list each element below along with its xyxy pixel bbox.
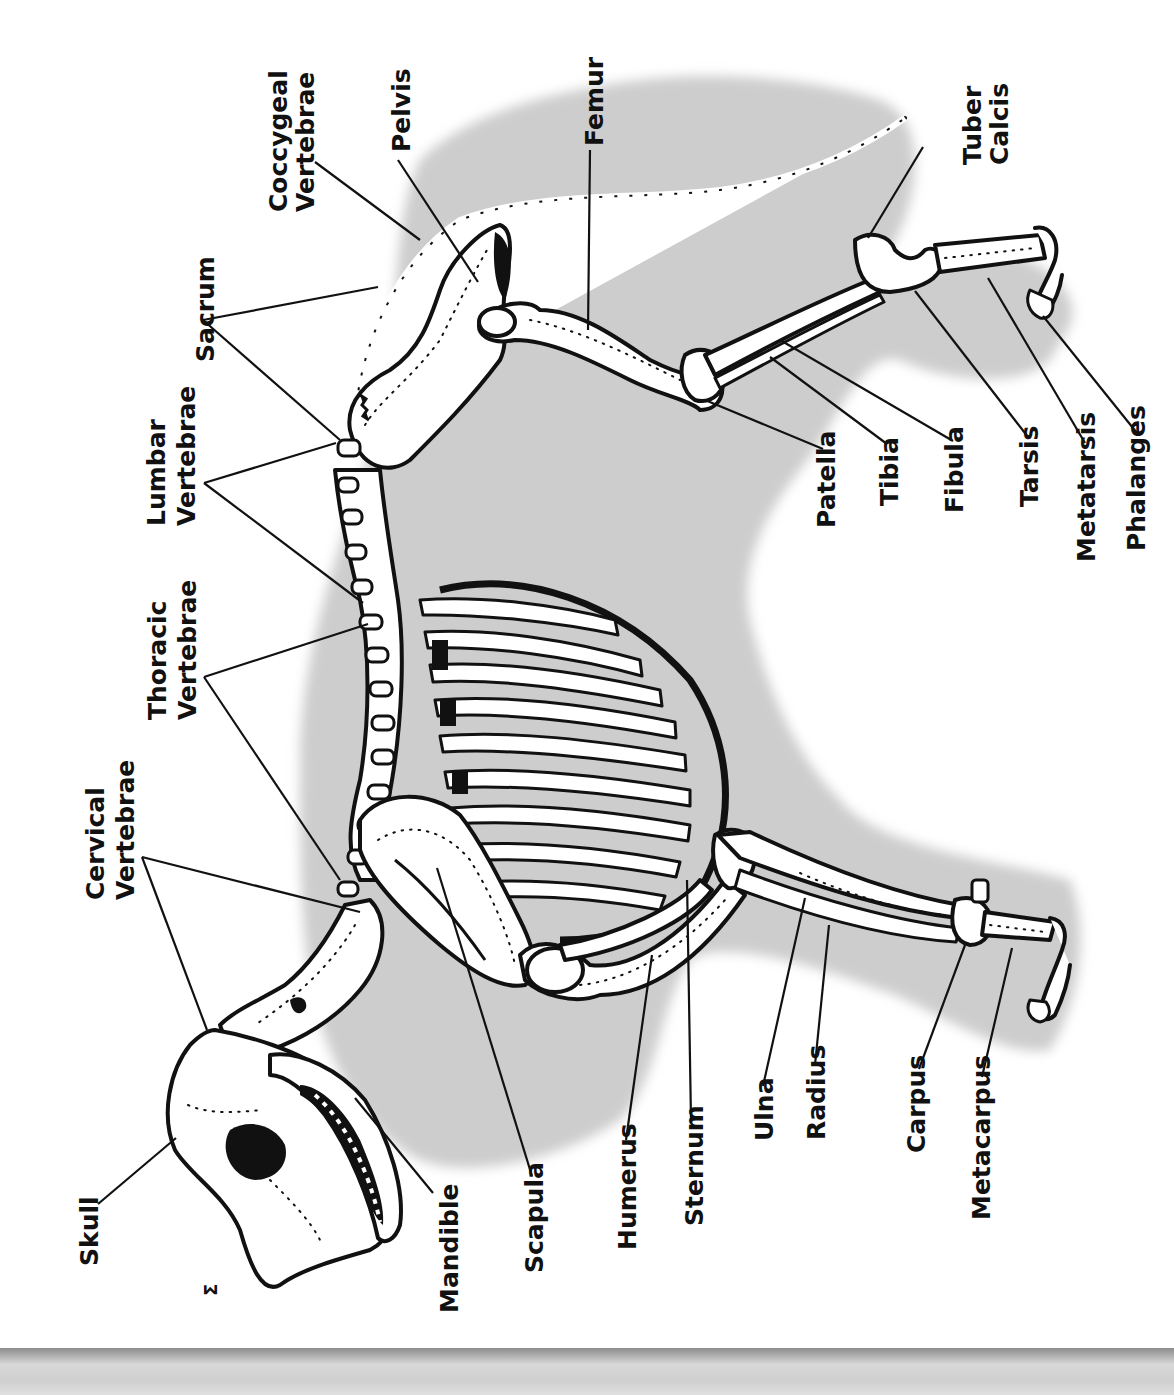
label-mandible: Mandible (435, 1184, 464, 1313)
label-tuber-calcis: TuberCalcis (958, 83, 1014, 165)
body-silhouette (300, 76, 1080, 1168)
label-skull: Skull (75, 1196, 104, 1266)
label-fibula: Fibula (940, 426, 969, 513)
label-sternum: Sternum (680, 1105, 709, 1226)
dog-skeleton-diagram: CoccygealVertebrae Pelvis Femur TuberCal… (0, 0, 1174, 1395)
label-radius: Radius (802, 1045, 831, 1140)
label-metacarpus: Metacarpus (967, 1055, 996, 1220)
label-thoracic-vertebrae: ThoracicVertebrae (143, 580, 202, 720)
label-pelvis: Pelvis (387, 68, 416, 152)
label-phalanges: Phalanges (1122, 405, 1151, 551)
label-sacrum: Sacrum (191, 256, 220, 362)
label-lumbar-vertebrae: LumbarVertebrae (142, 386, 201, 526)
label-femur: Femur (580, 56, 609, 146)
label-tibia: Tibia (875, 437, 904, 506)
label-scapula: Scapula (520, 1162, 549, 1273)
label-metatarsis: Metatarsis (1072, 412, 1101, 562)
label-patella: Patella (812, 431, 841, 528)
page-edge-shadow (0, 1348, 1174, 1395)
label-ulna: Ulna (750, 1077, 779, 1141)
label-tarsis: Tarsis (1015, 426, 1044, 507)
label-carpus: Carpus (902, 1055, 931, 1153)
label-humerus: Humerus (613, 1123, 642, 1250)
page-number: Σ (200, 1284, 221, 1296)
label-coccygeal-vertebrae: CoccygealVertebrae (264, 70, 320, 212)
label-cervical-vertebrae: CervicalVertebrae (81, 760, 140, 900)
